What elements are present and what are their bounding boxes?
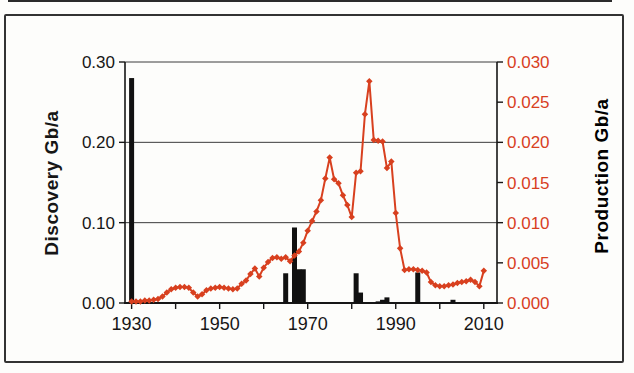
discovery-bar[interactable]	[283, 273, 288, 303]
discovery-bar[interactable]	[129, 78, 134, 303]
right-axis-tick-label: 0.015	[507, 174, 550, 193]
production-point[interactable]	[481, 268, 488, 275]
production-point[interactable]	[362, 111, 369, 118]
right-axis-tick-label: 0.030	[507, 53, 550, 72]
production-line	[132, 81, 484, 301]
production-point[interactable]	[313, 208, 320, 215]
production-point[interactable]	[397, 245, 404, 252]
x-axis-tick-label: 1970	[288, 314, 328, 334]
discovery-bar[interactable]	[376, 301, 381, 303]
production-point[interactable]	[300, 239, 307, 246]
production-point[interactable]	[348, 214, 355, 221]
production-point[interactable]	[340, 192, 347, 199]
production-point[interactable]	[392, 210, 399, 217]
production-point[interactable]	[322, 175, 329, 182]
left-axis-tick-label: 0.10	[82, 214, 115, 233]
production-point[interactable]	[326, 154, 333, 161]
right-axis-tick-label: 0.005	[507, 254, 550, 273]
discovery-bar[interactable]	[380, 300, 385, 303]
x-axis-tick-label: 2010	[464, 314, 504, 334]
chart-canvas: 0.000.100.200.300.0000.0050.0100.0150.02…	[0, 0, 634, 373]
discovery-bar[interactable]	[301, 269, 306, 303]
left-axis-tick-label: 0.30	[82, 53, 115, 72]
right-axis-tick-label: 0.020	[507, 133, 550, 152]
discovery-bar[interactable]	[296, 269, 301, 303]
production-point[interactable]	[318, 197, 325, 204]
left-axis-tick-label: 0.20	[82, 133, 115, 152]
right-axis-title: Production Gb/a	[591, 86, 613, 266]
production-point[interactable]	[304, 227, 311, 234]
x-axis-tick-label: 1930	[112, 314, 152, 334]
left-axis-tick-label: 0.00	[82, 294, 115, 313]
discovery-bar[interactable]	[358, 293, 363, 303]
left-axis-title: Discovery Gb/a	[41, 93, 63, 273]
production-point[interactable]	[309, 218, 316, 225]
figure: 0.000.100.200.300.0000.0050.0100.0150.02…	[0, 0, 634, 373]
discovery-bar[interactable]	[415, 272, 420, 303]
production-point[interactable]	[344, 202, 351, 209]
right-axis-tick-label: 0.000	[507, 294, 550, 313]
production-point[interactable]	[379, 138, 386, 145]
right-axis-tick-label: 0.025	[507, 93, 550, 112]
discovery-bar[interactable]	[384, 297, 389, 303]
x-axis-tick-label: 1950	[200, 314, 240, 334]
production-point[interactable]	[366, 78, 373, 85]
right-axis-tick-label: 0.010	[507, 214, 550, 233]
discovery-bar[interactable]	[450, 300, 455, 303]
x-axis-tick-label: 1990	[376, 314, 416, 334]
discovery-bar[interactable]	[354, 273, 359, 303]
discovery-bar[interactable]	[292, 227, 297, 303]
